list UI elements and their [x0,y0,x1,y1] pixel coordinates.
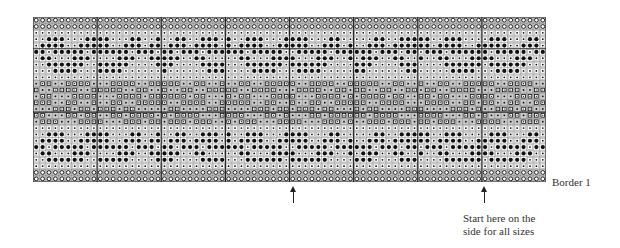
arrow-up-icon [293,191,294,203]
start-arrow-up-icon [484,191,485,203]
start-label-line-2: side for all sizes [463,225,583,238]
start-here-label: Start here on the side for all sizes [463,212,583,238]
chart-grid [33,17,546,182]
border-label: Border 1 [552,176,591,189]
start-label-line-1: Start here on the [463,212,583,225]
knitting-chart [33,17,546,182]
